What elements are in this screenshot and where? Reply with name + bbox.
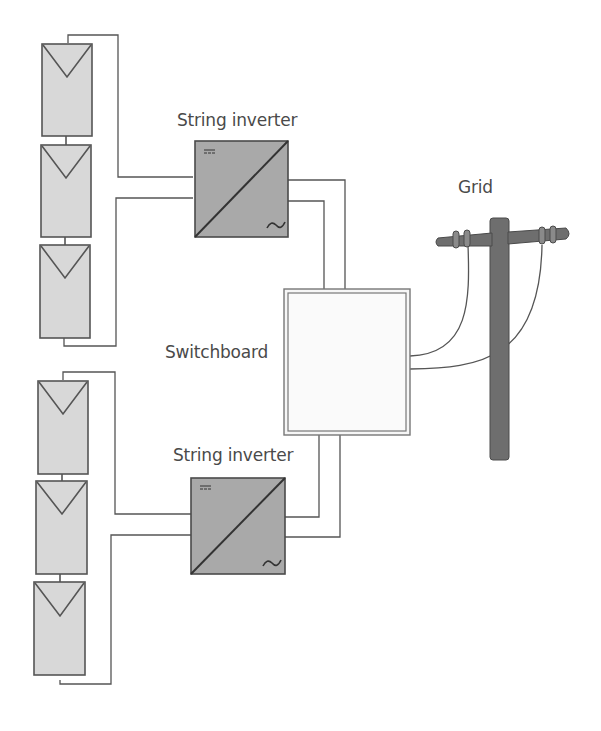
label-switchboard: Switchboard — [165, 342, 268, 362]
solar-string-top — [40, 44, 92, 338]
solar-panel — [40, 245, 90, 338]
solar-panel — [38, 381, 88, 474]
label-string-inverter-bottom: String inverter — [173, 445, 293, 465]
string-inverter-bottom — [191, 478, 285, 574]
utility-pole — [436, 218, 569, 460]
label-grid: Grid — [458, 177, 493, 197]
string-inverter-top — [195, 141, 288, 237]
label-string-inverter-top: String inverter — [177, 110, 297, 130]
wire-switchboard-grid — [410, 245, 542, 369]
solar-panel — [42, 44, 92, 136]
solar-string-bottom — [34, 381, 88, 675]
solar-panel — [36, 481, 87, 574]
solar-panel — [34, 582, 85, 675]
wire-inverter-top-switchboard — [288, 180, 345, 289]
solar-panel — [41, 145, 91, 237]
pv-system-diagram — [0, 0, 601, 731]
switchboard — [284, 289, 410, 435]
